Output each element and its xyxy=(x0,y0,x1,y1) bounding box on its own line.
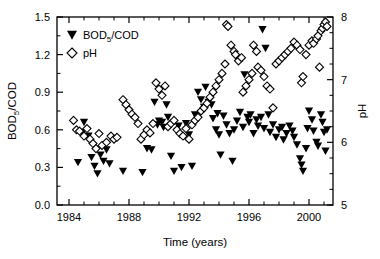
data-point-bod-cod xyxy=(279,136,287,143)
data-point-bod-cod xyxy=(305,108,313,115)
data-point-bod-cod xyxy=(239,124,247,131)
data-point-bod-cod xyxy=(162,101,170,108)
data-point-ph xyxy=(95,130,103,138)
data-point-bod-cod xyxy=(188,163,196,170)
y-right-axis-title: pH xyxy=(356,104,368,119)
x-axis-title: Time (years) xyxy=(163,236,227,248)
data-point-bod-cod xyxy=(147,146,155,153)
data-point-bod-cod xyxy=(293,141,301,148)
y-left-tick-label: 1.5 xyxy=(35,11,50,23)
data-point-ph xyxy=(316,63,324,71)
data-point-bod-cod xyxy=(321,148,329,155)
data-point-ph xyxy=(302,51,310,59)
data-point-bod-cod xyxy=(302,145,310,152)
data-point-bod-cod xyxy=(264,111,272,118)
legend-label-ph: pH xyxy=(83,47,97,59)
y-left-tick-label: 0.9 xyxy=(35,86,50,98)
data-point-bod-cod xyxy=(87,154,95,161)
x-tick-label: 1988 xyxy=(117,211,141,223)
data-point-ph xyxy=(70,116,78,124)
data-point-bod-cod xyxy=(216,151,224,158)
data-point-bod-cod xyxy=(74,159,82,166)
data-point-bod-cod xyxy=(314,143,322,150)
y-right-tick-label: 6 xyxy=(341,136,347,148)
data-point-bod-cod xyxy=(318,119,326,126)
data-point-bod-cod xyxy=(228,158,236,165)
data-point-bod-cod xyxy=(215,131,223,138)
x-tick-label: 1996 xyxy=(237,211,261,223)
data-point-bod-cod xyxy=(249,130,257,137)
chart-figure: 198419881992199620000.00.30.60.91.21.556… xyxy=(0,0,380,259)
x-tick-label: 2000 xyxy=(297,211,321,223)
data-point-bod-cod xyxy=(90,163,98,170)
data-point-bod-cod xyxy=(260,125,268,132)
data-point-bod-cod xyxy=(194,89,202,96)
data-point-bod-cod xyxy=(222,121,230,128)
data-point-ph xyxy=(269,104,277,112)
legend-label-bod-cod: BOD5/COD xyxy=(83,29,139,44)
data-point-bod-cod xyxy=(105,160,113,167)
y-right-tick-label: 5 xyxy=(341,199,347,211)
data-point-bod-cod xyxy=(177,164,185,171)
data-point-bod-cod xyxy=(93,170,101,177)
data-point-bod-cod xyxy=(290,134,298,141)
data-point-bod-cod xyxy=(170,168,178,175)
data-point-bod-cod xyxy=(150,99,158,106)
data-point-bod-cod xyxy=(119,168,127,175)
y-left-tick-label: 0.6 xyxy=(35,124,50,136)
data-point-bod-cod xyxy=(236,109,244,116)
data-point-bod-cod xyxy=(201,84,209,91)
x-tick-label: 1984 xyxy=(57,211,81,223)
data-point-ph xyxy=(221,60,229,68)
data-point-bod-cod xyxy=(138,169,146,176)
data-point-bod-cod xyxy=(258,26,266,33)
data-point-bod-cod xyxy=(209,115,217,122)
y-right-tick-label: 8 xyxy=(341,11,347,23)
data-point-bod-cod xyxy=(167,153,175,160)
chart-legend: BOD5/CODpH xyxy=(67,29,139,59)
y-left-tick-label: 1.2 xyxy=(35,49,50,61)
y-left-tick-label: 0.0 xyxy=(35,199,50,211)
data-point-bod-cod xyxy=(272,134,280,141)
data-point-bod-cod xyxy=(299,168,307,175)
data-point-ph xyxy=(149,120,157,128)
legend-marker-bod-cod xyxy=(67,31,77,40)
data-point-bod-cod xyxy=(308,116,316,123)
y-left-axis-title: BOD5/COD xyxy=(6,82,21,140)
x-tick-label: 1992 xyxy=(177,211,201,223)
data-point-bod-cod xyxy=(225,130,233,137)
data-point-bod-cod xyxy=(261,45,269,52)
data-point-bod-cod xyxy=(309,128,317,135)
data-point-bod-cod xyxy=(219,113,227,120)
legend-marker-ph xyxy=(67,48,77,58)
y-right-tick-label: 7 xyxy=(341,74,347,86)
data-point-bod-cod xyxy=(317,111,325,118)
y-left-tick-label: 0.3 xyxy=(35,161,50,173)
scatter-plot: 198419881992199620000.00.30.60.91.21.556… xyxy=(0,0,380,259)
